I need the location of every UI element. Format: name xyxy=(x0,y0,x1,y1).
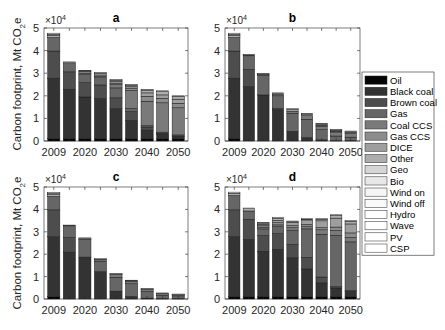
y-tick-label: 3 xyxy=(33,67,39,79)
legend-swatch xyxy=(365,222,387,230)
x-tick-label: 2050 xyxy=(166,146,190,158)
bar-segment xyxy=(172,99,184,103)
legend-item: Bio xyxy=(365,176,404,187)
bar-segment xyxy=(330,227,341,230)
legend-item: PV xyxy=(365,232,403,243)
panel-title: c xyxy=(113,170,120,184)
legend-item: Wind on xyxy=(365,187,425,198)
bar-segment xyxy=(287,226,298,228)
bar-segment xyxy=(345,221,356,224)
legend-label: Gas xyxy=(390,108,408,119)
bar-segment xyxy=(287,109,298,110)
bar-segment xyxy=(287,113,298,131)
bar-segment xyxy=(272,110,283,141)
bar-segment xyxy=(172,96,184,97)
y-tick-label: 4 xyxy=(33,45,39,57)
legend-swatch xyxy=(365,87,387,95)
bar-segment xyxy=(258,229,269,236)
bar-2050 xyxy=(345,221,356,299)
bar-segment xyxy=(94,259,106,260)
legend-swatch xyxy=(365,110,387,118)
panel-c: 01234520092020203020402050×104c xyxy=(33,170,191,316)
bar-segment xyxy=(345,291,356,296)
axis-multiplier: ×104 xyxy=(45,14,66,26)
bar-segment xyxy=(316,283,327,297)
bar-segment xyxy=(272,223,283,225)
bar-segment xyxy=(48,194,60,196)
legend-label: Wind off xyxy=(390,198,425,209)
axis-multiplier: ×104 xyxy=(226,173,247,185)
bar-segment xyxy=(79,97,91,139)
x-tick-label: 2030 xyxy=(104,304,128,316)
bar-segment xyxy=(316,126,327,130)
bar-segment xyxy=(243,87,254,141)
legend-label: Geo xyxy=(390,164,408,175)
legend-label: Coal CCS xyxy=(390,120,432,131)
x-tick-label: 2040 xyxy=(309,304,333,316)
bar-segment xyxy=(272,217,283,218)
legend-item: Wind off xyxy=(365,198,425,209)
x-tick-label: 2009 xyxy=(222,304,246,316)
bar-2015 xyxy=(243,208,254,299)
bar-segment xyxy=(63,89,75,138)
bar-segment xyxy=(94,73,106,75)
bar-segment xyxy=(287,258,298,297)
bar-segment xyxy=(258,222,269,223)
bar-segment xyxy=(258,236,269,252)
x-tick-label: 2020 xyxy=(73,146,97,158)
bar-2020 xyxy=(258,73,269,141)
x-tick-label: 2009 xyxy=(42,304,66,316)
legend-label: Other xyxy=(390,153,414,164)
y-tick-label: 3 xyxy=(33,226,39,238)
bar-segment xyxy=(287,244,298,257)
bar-segment xyxy=(94,272,106,299)
legend-swatch xyxy=(365,177,387,185)
bar-2020 xyxy=(258,222,269,299)
bar-segment xyxy=(48,37,60,51)
bar-segment xyxy=(229,193,240,195)
bar-2025 xyxy=(272,217,283,299)
bar-segment xyxy=(125,108,137,111)
bar-segment xyxy=(330,218,341,227)
bar-segment xyxy=(79,83,91,97)
bar-segment xyxy=(63,225,75,226)
y-tick-label: 0 xyxy=(214,135,220,147)
y-tick-label: 4 xyxy=(214,45,220,57)
bar-segment xyxy=(229,35,240,37)
bar-2015 xyxy=(63,62,75,141)
bar-2030 xyxy=(287,221,298,299)
bar-segment xyxy=(330,129,341,130)
bar-segment xyxy=(243,208,254,209)
legend-swatch xyxy=(365,121,387,129)
y-tick-label: 0 xyxy=(33,135,39,147)
bar-segment xyxy=(172,103,184,108)
x-tick-label: 2009 xyxy=(42,146,66,158)
bar-segment xyxy=(63,227,75,238)
bar-segment xyxy=(172,294,184,295)
bar-segment xyxy=(301,224,312,226)
y-tick-label: 2 xyxy=(214,90,220,102)
y-tick-label: 5 xyxy=(214,181,220,193)
bar-2020 xyxy=(79,70,91,141)
legend-swatch xyxy=(365,233,387,241)
legend-label: Hydro xyxy=(390,209,415,220)
bar-segment xyxy=(258,251,269,296)
y-tick-label: 2 xyxy=(214,248,220,260)
bar-segment xyxy=(110,80,122,81)
bar-2025 xyxy=(272,93,283,141)
bar-segment xyxy=(287,109,298,111)
bar-segment xyxy=(229,210,240,237)
bar-segment xyxy=(243,211,254,219)
bar-segment xyxy=(258,227,269,229)
bar-segment xyxy=(141,93,153,96)
bar-segment xyxy=(345,242,356,291)
bar-segment xyxy=(63,62,75,63)
y-tick-label: 4 xyxy=(214,203,220,215)
y-tick-label: 1 xyxy=(214,112,220,124)
y-tick-label: 3 xyxy=(214,67,220,79)
bar-segment xyxy=(330,235,341,286)
bar-2015 xyxy=(63,225,75,299)
bar-segment xyxy=(48,196,60,209)
legend-label: Bio xyxy=(390,176,404,187)
bar-segment xyxy=(301,229,312,257)
